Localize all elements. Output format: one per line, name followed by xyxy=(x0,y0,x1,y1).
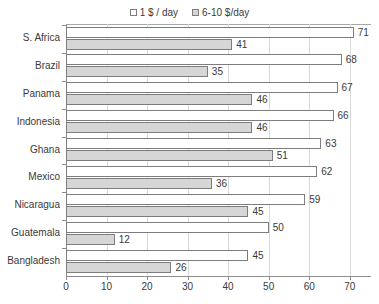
category-label-bangladesh: Bangladesh xyxy=(0,255,60,266)
x-tick-label-20: 20 xyxy=(132,281,162,292)
x-tick-60 xyxy=(309,277,310,280)
category-label-brazil: Brazil xyxy=(0,60,60,71)
bar-value-label-1-7: 50 xyxy=(273,222,284,233)
x-tick-40 xyxy=(228,277,229,280)
bar-1-3 xyxy=(66,110,334,121)
legend-swatch-icon-series-2 xyxy=(192,9,199,16)
bar-2-7 xyxy=(66,234,115,245)
x-tick-30 xyxy=(188,277,189,280)
bar-value-label-1-8: 45 xyxy=(252,250,263,261)
bar-1-8 xyxy=(66,250,248,261)
bar-value-label-2-0: 41 xyxy=(236,39,247,50)
bar-value-label-1-2: 67 xyxy=(342,82,353,93)
x-tick-0 xyxy=(66,277,67,280)
bar-value-label-1-1: 68 xyxy=(346,54,357,65)
chart-legend: 1 $ / day 6-10 $/day xyxy=(0,7,379,18)
bar-value-label-2-3: 46 xyxy=(256,122,267,133)
bar-value-label-2-7: 12 xyxy=(119,234,130,245)
category-label-guatemala: Guatemala xyxy=(0,227,60,238)
x-tick-10 xyxy=(107,277,108,280)
category-label-ghana: Ghana xyxy=(0,144,60,155)
bar-2-1 xyxy=(66,66,208,77)
bar-value-label-2-5: 36 xyxy=(216,178,227,189)
legend-entry-series-2: 6-10 $/day xyxy=(192,7,249,18)
plot-top-border xyxy=(66,24,371,25)
y-tick-5 xyxy=(62,164,66,165)
category-label-s-africa: S. Africa xyxy=(0,32,60,43)
x-tick-label-10: 10 xyxy=(92,281,122,292)
bar-2-6 xyxy=(66,206,248,217)
bar-2-5 xyxy=(66,178,212,189)
bar-value-label-2-1: 35 xyxy=(212,66,223,77)
x-tick-label-50: 50 xyxy=(254,281,284,292)
x-tick-label-40: 40 xyxy=(213,281,243,292)
x-tick-20 xyxy=(147,277,148,280)
category-label-panama: Panama xyxy=(0,88,60,99)
category-label-mexico: Mexico xyxy=(0,171,60,182)
bar-2-2 xyxy=(66,94,252,105)
legend-entry-series-1: 1 $ / day xyxy=(130,7,178,18)
x-tick-label-70: 70 xyxy=(335,281,365,292)
bar-value-label-2-6: 45 xyxy=(252,206,263,217)
bar-2-0 xyxy=(66,39,232,50)
x-tick-label-30: 30 xyxy=(173,281,203,292)
category-label-indonesia: Indonesia xyxy=(0,116,60,127)
y-tick-7 xyxy=(62,220,66,221)
bar-value-label-1-5: 62 xyxy=(321,166,332,177)
bar-value-label-2-4: 51 xyxy=(277,150,288,161)
legend-label-series-1: 1 $ / day xyxy=(140,7,178,18)
bar-value-label-2-2: 46 xyxy=(256,94,267,105)
x-tick-70 xyxy=(350,277,351,280)
y-tick-0 xyxy=(62,25,66,26)
y-tick-6 xyxy=(62,192,66,193)
bar-1-6 xyxy=(66,194,305,205)
bar-1-1 xyxy=(66,54,342,65)
bar-value-label-1-0: 71 xyxy=(358,27,369,38)
bar-2-4 xyxy=(66,150,273,161)
bar-1-5 xyxy=(66,166,317,177)
legend-swatch-icon-series-1 xyxy=(130,9,137,16)
bar-1-4 xyxy=(66,138,321,149)
bar-value-label-2-8: 26 xyxy=(175,262,186,273)
category-label-nicaragua: Nicaragua xyxy=(0,199,60,210)
bar-value-label-1-3: 66 xyxy=(338,110,349,121)
bar-value-label-1-6: 59 xyxy=(309,194,320,205)
bar-2-3 xyxy=(66,122,252,133)
x-tick-50 xyxy=(269,277,270,280)
x-tick-label-60: 60 xyxy=(294,281,324,292)
legend-label-series-2: 6-10 $/day xyxy=(202,7,249,18)
bar-1-2 xyxy=(66,82,338,93)
x-tick-label-0: 0 xyxy=(51,281,81,292)
bar-1-7 xyxy=(66,222,269,233)
bar-1-0 xyxy=(66,27,354,38)
bar-2-8 xyxy=(66,262,171,273)
y-tick-8 xyxy=(62,248,66,249)
bar-value-label-1-4: 63 xyxy=(325,138,336,149)
x-axis-line xyxy=(66,276,371,277)
bar-chart: 1 $ / day 6-10 $/day 010203040506070 S. … xyxy=(0,0,379,304)
